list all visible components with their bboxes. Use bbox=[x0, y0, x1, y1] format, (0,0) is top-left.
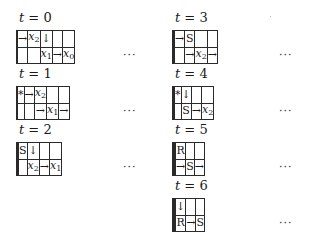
right-arrow-icon: → bbox=[176, 159, 186, 176]
state-cell-s: S bbox=[185, 31, 195, 48]
lower-row: →x1→ bbox=[17, 103, 70, 120]
down-arrow-icon: ↓ bbox=[181, 87, 191, 104]
empty-cell bbox=[52, 31, 62, 48]
variable-cell: x2 bbox=[34, 87, 46, 104]
time-label: t = 5 bbox=[175, 123, 208, 137]
right-arrow-icon: → bbox=[18, 31, 28, 48]
subscript: 1 bbox=[56, 164, 61, 173]
right-arrow-icon: → bbox=[175, 31, 185, 48]
variable-cell: x1 bbox=[50, 159, 62, 176]
subscript: 0 bbox=[69, 52, 74, 61]
right-arrow-icon: → bbox=[207, 47, 217, 64]
time-value: 2 bbox=[43, 122, 51, 137]
empty-cell bbox=[207, 31, 217, 48]
subscript: 2 bbox=[208, 108, 213, 117]
variable-cell: x0 bbox=[63, 47, 75, 64]
time-label: t = 1 bbox=[19, 67, 52, 81]
equals-sign: = bbox=[180, 178, 199, 193]
empty-cell bbox=[201, 87, 213, 104]
right-arrow-icon: → bbox=[52, 47, 62, 64]
equals-sign: = bbox=[180, 10, 199, 25]
subscript: 2 bbox=[34, 35, 39, 44]
equals-sign: = bbox=[24, 122, 43, 137]
empty-cell bbox=[39, 143, 49, 160]
time-value: 1 bbox=[43, 66, 51, 81]
subscript: 2 bbox=[34, 164, 39, 173]
equals-sign: = bbox=[180, 66, 199, 81]
artifact-speck bbox=[270, 16, 271, 17]
variable-cell: x1 bbox=[47, 103, 59, 120]
time-label: t = 6 bbox=[175, 179, 208, 193]
time-label: t = 0 bbox=[19, 11, 52, 25]
state-cell-r: R bbox=[176, 143, 186, 160]
time-value: 5 bbox=[199, 122, 207, 137]
lower-row: R→S bbox=[173, 215, 205, 232]
equals-sign: = bbox=[180, 122, 199, 137]
state-cell-s: S bbox=[181, 103, 191, 120]
upper-row: *→x2 bbox=[17, 87, 70, 104]
continuation-ellipsis: ··· bbox=[123, 105, 137, 118]
down-arrow-icon: ↓ bbox=[40, 31, 52, 48]
upper-row: →x2↓ bbox=[17, 31, 75, 48]
empty-cell bbox=[28, 47, 40, 64]
continuation-ellipsis: ··· bbox=[123, 49, 137, 62]
empty-cell bbox=[186, 199, 196, 216]
lower-row: x1→x0 bbox=[17, 47, 75, 64]
time-label: t = 4 bbox=[175, 67, 208, 81]
upper-row: *↓ bbox=[173, 87, 214, 104]
variable-cell: x2 bbox=[28, 31, 40, 48]
empty-cell bbox=[59, 87, 69, 104]
variable-cell: x2 bbox=[195, 47, 207, 64]
empty-cell bbox=[195, 31, 207, 48]
cell-grid: →S→x2→ bbox=[172, 30, 218, 64]
time-value: 6 bbox=[199, 178, 207, 193]
empty-cell bbox=[175, 47, 185, 64]
cell-grid: *↓S→x2 bbox=[172, 86, 214, 120]
right-arrow-icon: → bbox=[34, 103, 46, 120]
cell-grid: →x2↓x1→x0 bbox=[16, 30, 75, 64]
time-value: 4 bbox=[199, 66, 207, 81]
time-label: t = 3 bbox=[175, 11, 208, 25]
empty-cell bbox=[50, 143, 62, 160]
right-arrow-icon: → bbox=[194, 159, 204, 176]
down-arrow-icon: ↓ bbox=[27, 143, 39, 160]
state-cell-s: S bbox=[19, 143, 28, 160]
lower-row: x2→x1 bbox=[17, 159, 62, 176]
empty-cell bbox=[194, 143, 204, 160]
subscript: 2 bbox=[41, 91, 46, 100]
variable-cell: x2 bbox=[201, 103, 213, 120]
continuation-ellipsis: ··· bbox=[279, 49, 293, 62]
right-arrow-icon: → bbox=[59, 103, 69, 120]
upper-row: S↓ bbox=[17, 143, 62, 160]
upper-row: →S bbox=[173, 31, 218, 48]
variable-cell: x2 bbox=[27, 159, 39, 176]
star-marker: * bbox=[18, 87, 25, 104]
variable-cell: x1 bbox=[40, 47, 52, 64]
time-label: t = 2 bbox=[19, 123, 52, 137]
equals-sign: = bbox=[24, 66, 43, 81]
upper-row: ↓ bbox=[173, 199, 205, 216]
cell-grid: ↓R→S bbox=[172, 198, 205, 232]
down-arrow-icon: ↓ bbox=[176, 199, 186, 216]
continuation-ellipsis: ··· bbox=[279, 161, 293, 174]
right-arrow-icon: → bbox=[191, 103, 201, 120]
empty-cell bbox=[191, 87, 201, 104]
right-arrow-icon: → bbox=[24, 87, 34, 104]
cell-grid: S↓x2→x1 bbox=[16, 142, 62, 176]
right-arrow-icon: → bbox=[185, 47, 195, 64]
lower-row: →S→ bbox=[173, 159, 205, 176]
empty-cell bbox=[47, 87, 59, 104]
subscript: 1 bbox=[47, 52, 52, 61]
state-cell-r: R bbox=[176, 215, 186, 232]
lower-row: →x2→ bbox=[173, 47, 218, 64]
empty-cell bbox=[18, 47, 28, 64]
empty-cell bbox=[196, 199, 205, 216]
right-arrow-icon: → bbox=[186, 215, 196, 232]
empty-cell bbox=[186, 143, 195, 160]
empty-cell bbox=[24, 103, 34, 120]
continuation-ellipsis: ··· bbox=[279, 217, 293, 230]
right-arrow-icon: → bbox=[39, 159, 49, 176]
state-cell-s: S bbox=[196, 215, 205, 232]
continuation-ellipsis: ··· bbox=[279, 105, 293, 118]
star-marker: * bbox=[175, 87, 182, 104]
